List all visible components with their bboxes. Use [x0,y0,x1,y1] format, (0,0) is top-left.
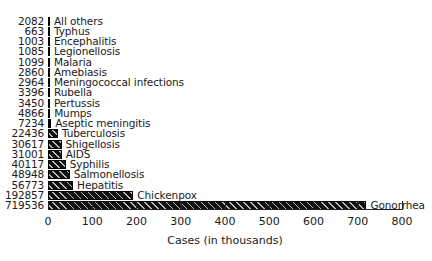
x-tick [313,201,314,210]
x-tick [48,201,49,210]
x-tick-label: 100 [82,215,103,228]
bar [48,99,50,108]
bar [48,140,62,149]
bar [48,150,62,159]
x-tick [180,201,181,210]
bar [48,181,73,190]
bar [48,78,50,87]
bar [48,17,50,26]
bar [48,160,66,169]
x-tick [269,201,270,210]
disease-cases-bar-chart: 2082All others663Typhus1003Encephalitis1… [0,0,432,261]
bar [48,109,50,118]
x-tick-label: 600 [303,215,324,228]
x-tick-label: 400 [215,215,236,228]
x-axis-title: Cases (in thousands) [167,234,282,247]
bar [48,170,70,179]
bar [48,37,50,46]
x-tick [402,201,403,210]
value-label: 719536 [5,200,44,211]
bar [48,129,58,138]
bar [48,47,50,56]
bar [48,119,51,128]
x-tick-label: 0 [45,215,52,228]
x-tick-label: 300 [170,215,191,228]
bar [48,58,50,67]
bar [48,27,50,36]
x-tick [357,201,358,210]
x-tick-label: 200 [126,215,147,228]
bar [48,88,50,97]
x-tick [225,201,226,210]
x-tick [136,201,137,210]
x-tick-label: 800 [392,215,413,228]
bar [48,191,133,200]
x-tick [92,201,93,210]
x-tick-label: 700 [347,215,368,228]
x-tick-label: 500 [259,215,280,228]
bar [48,68,50,77]
